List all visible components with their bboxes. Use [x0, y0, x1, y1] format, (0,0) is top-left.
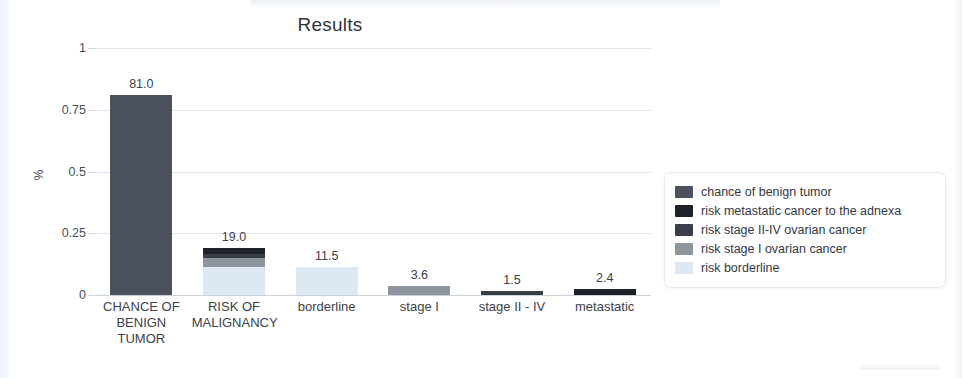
x-axis-label: RISK OF MALIGNANCY [192, 299, 277, 331]
y-tick-label: 0.5 [69, 165, 86, 179]
bar-value-label: 81.0 [129, 77, 153, 91]
legend-color-swatch [675, 243, 693, 255]
legend-item[interactable]: risk borderline [675, 258, 935, 277]
chart-title: Results [0, 14, 660, 36]
bar-value-label: 1.5 [503, 273, 520, 287]
results-bar-chart: Results % 10.750.50.25081.0CHANCE OF BEN… [0, 0, 962, 378]
legend-color-swatch [675, 205, 693, 217]
bar-segment[interactable] [296, 267, 358, 295]
legend-item-label: risk stage I ovarian cancer [701, 242, 847, 256]
y-tick-label: 1 [79, 41, 86, 55]
x-axis-label: stage II - IV [470, 299, 555, 315]
bar-segment[interactable] [203, 267, 265, 295]
legend-item-label: chance of benign tumor [701, 185, 832, 199]
y-tick-label: 0.75 [62, 103, 86, 117]
x-axis-label: borderline [284, 299, 369, 315]
bar-segment[interactable] [110, 95, 172, 295]
x-axis-label: stage I [377, 299, 462, 315]
legend-item[interactable]: risk stage II-IV ovarian cancer [675, 220, 935, 239]
legend-item-label: risk metastatic cancer to the adnexa [701, 204, 901, 218]
gridline: 0 [95, 295, 651, 296]
gridline: 0.75 [95, 110, 651, 111]
legend-item[interactable]: chance of benign tumor [675, 182, 935, 201]
y-tick-label: 0 [79, 288, 86, 302]
bar-segment[interactable] [481, 291, 543, 295]
gridline: 0.25 [95, 233, 651, 234]
bar-metastatic[interactable]: 2.4 [574, 289, 636, 295]
bar-value-label: 3.6 [411, 268, 428, 282]
legend-item-label: risk borderline [701, 261, 780, 275]
bar-risk-of-malignancy[interactable]: 19.0 [203, 248, 265, 295]
y-tick-mark [88, 295, 95, 296]
y-tick-mark [88, 48, 95, 49]
bar-value-label: 11.5 [315, 249, 338, 263]
bar-value-label: 19.0 [222, 230, 246, 244]
legend-color-swatch [675, 186, 693, 198]
y-axis-label: % [32, 170, 46, 181]
bar-stage-i[interactable]: 3.6 [388, 286, 450, 295]
bar-borderline[interactable]: 11.5 [296, 267, 358, 295]
chart-legend: chance of benign tumorrisk metastatic ca… [664, 172, 946, 288]
y-tick-mark [88, 172, 95, 173]
legend-item[interactable]: risk stage I ovarian cancer [675, 239, 935, 258]
gridline: 1 [95, 48, 651, 49]
bar-segment[interactable] [203, 258, 265, 267]
legend-color-swatch [675, 262, 693, 274]
bar-chance-of-benign-tumor[interactable]: 81.0 [110, 95, 172, 295]
bar-segment[interactable] [574, 289, 636, 295]
bar-segment[interactable] [388, 286, 450, 295]
plot-area: 10.750.50.25081.0CHANCE OF BENIGN TUMOR1… [95, 48, 651, 295]
y-tick-mark [88, 110, 95, 111]
bar-value-label: 2.4 [596, 271, 613, 285]
legend-item-label: risk stage II-IV ovarian cancer [701, 223, 866, 237]
y-tick-mark [88, 233, 95, 234]
legend-color-swatch [675, 224, 693, 236]
bar-stage-ii-iv[interactable]: 1.5 [481, 291, 543, 295]
x-axis-label: CHANCE OF BENIGN TUMOR [99, 299, 184, 347]
y-tick-label: 0.25 [62, 226, 86, 240]
gridline: 0.5 [95, 172, 651, 173]
legend-item[interactable]: risk metastatic cancer to the adnexa [675, 201, 935, 220]
x-axis-label: metastatic [562, 299, 647, 315]
